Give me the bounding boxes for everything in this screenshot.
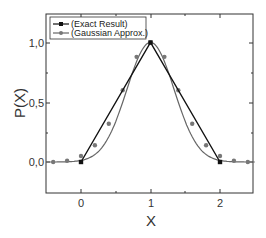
x-tick-label: 1 xyxy=(148,197,154,209)
data-point xyxy=(204,143,208,147)
legend: (Exact Result) (Gaussian Approx.) xyxy=(50,17,148,39)
y-axis-label: P(X) xyxy=(11,88,28,118)
legend-item-gaussian: (Gaussian Approx.) xyxy=(71,28,148,38)
x-axis-label: X xyxy=(146,212,156,229)
circle-marker-icon xyxy=(59,31,63,35)
data-point xyxy=(51,160,55,164)
series-gaussian-approx xyxy=(46,40,255,164)
data-point xyxy=(93,143,97,147)
y-ticks xyxy=(46,43,253,162)
data-point xyxy=(190,122,194,126)
chart: 0 1 2 0,0 0,5 1,0 X P(X) (Exact Result) … xyxy=(0,0,266,238)
series-exact-result xyxy=(79,40,222,164)
square-marker-icon xyxy=(59,22,63,26)
data-point xyxy=(148,40,152,44)
data-point xyxy=(134,55,138,59)
data-point xyxy=(246,160,250,164)
x-tick-label: 2 xyxy=(217,197,223,209)
data-point xyxy=(232,159,236,163)
data-point xyxy=(162,55,166,59)
x-tick-label: 0 xyxy=(78,197,84,209)
data-point xyxy=(65,159,69,163)
y-tick-label: 0,5 xyxy=(29,97,44,109)
data-point xyxy=(107,122,111,126)
data-point xyxy=(218,154,222,158)
data-point xyxy=(218,160,222,164)
y-tick-label: 1,0 xyxy=(29,37,44,49)
y-tick-label: 0,0 xyxy=(29,156,44,168)
data-point xyxy=(79,160,83,164)
data-point xyxy=(79,154,83,158)
